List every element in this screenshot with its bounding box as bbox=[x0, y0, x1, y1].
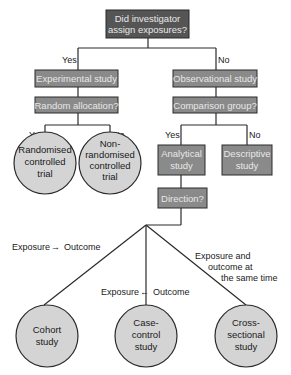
random-allocation-label: Random allocation? bbox=[35, 100, 119, 111]
descriptive-line-1: Descriptive bbox=[224, 148, 271, 159]
simultaneous-direction-label: Exposure and outcome at the same time bbox=[195, 251, 278, 283]
nrct-line-3: controlled bbox=[89, 160, 130, 171]
simultaneous-line-2: outcome at bbox=[208, 262, 253, 272]
assign-exposures-question: Did investigator assign exposures? bbox=[106, 10, 189, 38]
case-control-line-3: study bbox=[135, 341, 158, 352]
experimental-study-box: Experimental study bbox=[35, 70, 118, 87]
analytical-line-2: study bbox=[170, 160, 193, 171]
simultaneous-line-3: the same time bbox=[221, 273, 278, 283]
cohort-line-2: study bbox=[36, 336, 59, 347]
study-design-flowchart: Did investigator assign exposures? Yes N… bbox=[0, 0, 291, 375]
question-line-2: assign exposures? bbox=[108, 24, 187, 35]
case-control-study-circle: Case- control study bbox=[115, 305, 177, 367]
case-control-line-2: control bbox=[132, 329, 161, 340]
forward-direction-label: Exposure → Outcome bbox=[12, 242, 101, 252]
cross-sectional-line-2: sectional bbox=[227, 329, 265, 340]
no-label-top: No bbox=[218, 55, 230, 65]
yes-label-comparison: Yes bbox=[165, 130, 180, 140]
case-control-line-1: Case- bbox=[133, 317, 158, 328]
rct-line-3: trial bbox=[37, 168, 52, 179]
question-line-1: Did investigator bbox=[115, 13, 180, 24]
nrct-line-1: Non- bbox=[100, 138, 121, 149]
descriptive-study-box: Descriptive study bbox=[222, 145, 272, 175]
random-allocation-box: Random allocation? bbox=[35, 97, 119, 113]
nrct-line-4: trial bbox=[102, 171, 117, 182]
non-rct-circle: Non- randomised controlled trial bbox=[79, 132, 141, 194]
comparison-group-box: Comparison group? bbox=[173, 97, 257, 113]
observational-study-box: Observational study bbox=[173, 70, 257, 87]
cohort-line-1: Cohort bbox=[33, 324, 62, 335]
simultaneous-line-1: Exposure and bbox=[195, 251, 251, 261]
forward-outcome: Outcome bbox=[64, 242, 101, 252]
cross-sectional-line-1: Cross- bbox=[232, 317, 260, 328]
cross-sectional-line-3: study bbox=[235, 341, 258, 352]
direction-box: Direction? bbox=[158, 188, 207, 208]
observational-study-label: Observational study bbox=[173, 73, 257, 84]
descriptive-line-2: study bbox=[236, 160, 259, 171]
backward-arrow-icon: ← bbox=[140, 287, 149, 297]
backward-direction-label: Exposure ← Outcome bbox=[101, 287, 190, 297]
yes-label-top: Yes bbox=[62, 55, 77, 65]
backward-exposure: Exposure bbox=[101, 287, 139, 297]
nrct-line-2: randomised bbox=[85, 149, 135, 160]
backward-outcome: Outcome bbox=[153, 287, 190, 297]
cohort-study-circle: Cohort study bbox=[16, 305, 78, 367]
rct-circle: Randomised controlled trial bbox=[14, 132, 76, 194]
forward-arrow-icon: → bbox=[51, 242, 60, 252]
rct-line-2: controlled bbox=[24, 156, 65, 167]
rct-line-1: Randomised bbox=[18, 144, 71, 155]
analytical-line-1: Analytical bbox=[161, 148, 202, 159]
experimental-study-label: Experimental study bbox=[36, 73, 117, 84]
cross-sectional-study-circle: Cross- sectional study bbox=[215, 305, 277, 367]
no-label-comparison: No bbox=[249, 130, 261, 140]
comparison-group-label: Comparison group? bbox=[173, 100, 256, 111]
forward-exposure: Exposure bbox=[12, 242, 50, 252]
analytical-study-box: Analytical study bbox=[158, 145, 205, 175]
direction-label: Direction? bbox=[161, 193, 204, 204]
